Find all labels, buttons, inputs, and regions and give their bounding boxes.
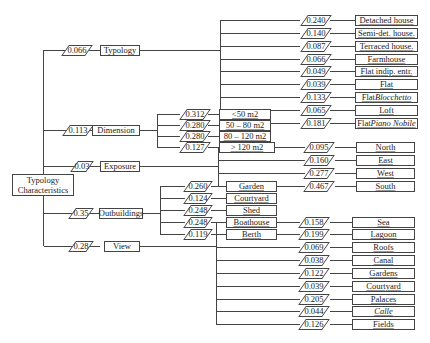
outbuildings-weight: 0.248 [187, 217, 209, 228]
typology-leaf: Detached house [355, 15, 418, 26]
exposure-weight: 0.160 [307, 155, 331, 166]
outbuildings-leaf: Shed [226, 205, 277, 216]
view-weight: 0.038 [302, 255, 326, 266]
category-weight-dimension: 0.113 [66, 125, 90, 136]
dimension-leaf: 50 – 80 m2 [219, 120, 271, 131]
exposure-weight: 0.467 [307, 181, 331, 192]
category-dimension: Dimension [92, 125, 140, 136]
view-leaf: Gardens [352, 268, 415, 279]
typology-weight: 0.133 [304, 92, 328, 103]
root-node: Typology Characteristics [12, 174, 74, 196]
typology-leaf: Farmhouse [355, 54, 418, 65]
exposure-leaf: South [356, 181, 415, 192]
outbuildings-weight: 0.260 [187, 181, 209, 192]
exposure-leaf: East [356, 155, 415, 166]
category-weight-exposure: 0.03 [74, 161, 90, 172]
category-weight-outbuildings: 0.35 [72, 208, 90, 219]
dimension-weight: 0.312 [183, 109, 207, 120]
exposure-weight: 0.095 [307, 142, 331, 153]
view-weight: 0.199 [302, 229, 326, 240]
dimension-leaf: 80 – 120 m2 [219, 131, 271, 142]
typology-leaf: Semi-det. house. [355, 28, 418, 39]
dimension-weight: 0.280 [183, 120, 207, 131]
category-weight-view: 0.28 [72, 241, 90, 252]
category-view: View [104, 241, 140, 252]
root-label-line2: Characteristics [18, 185, 69, 195]
category-exposure: Exposure [100, 161, 140, 172]
view-weight: 0.069 [302, 242, 326, 253]
outbuildings-leaf: Boathouse [226, 217, 277, 228]
view-leaf: Roofs [352, 242, 415, 253]
dimension-leaf: <50 m2 [219, 109, 271, 120]
view-leaf: Canal [352, 255, 415, 266]
typology-leaf: Flat Blocchetto [355, 92, 418, 103]
typology-leaf: Loft [355, 105, 418, 116]
outbuildings-leaf: Courtyard [226, 193, 277, 204]
view-leaf: Fields [352, 319, 415, 330]
dimension-weight: 0.280 [183, 131, 207, 142]
outbuildings-leaf: Garden [226, 181, 277, 192]
typology-weight: 0.181 [304, 118, 328, 129]
outbuildings-weight: 0.124 [187, 193, 209, 204]
view-weight: 0.122 [302, 268, 326, 279]
typology-leaf: Flat Piano Nobile [355, 118, 418, 129]
category-typology: Typology [100, 45, 140, 56]
typology-hierarchy-diagram: Typology Characteristics 0.066 Typology … [0, 0, 430, 343]
view-leaf: Lagoon [352, 229, 415, 240]
view-leaf: Palaces [352, 294, 415, 305]
view-weight: 0.044 [302, 306, 326, 317]
category-weight-typology: 0.066 [65, 45, 89, 56]
typology-weight: 0.065 [304, 105, 328, 116]
typology-weight: 0.140 [304, 28, 328, 39]
exposure-weight: 0.277 [307, 168, 331, 179]
typology-weight: 0.049 [304, 66, 328, 77]
typology-weight: 0.039 [304, 79, 328, 90]
outbuildings-weight: 0.248 [187, 205, 209, 216]
typology-weight: 0.066 [304, 54, 328, 65]
view-weight: 0.205 [302, 294, 326, 305]
view-weight: 0.039 [302, 281, 326, 292]
typology-weight: 0.087 [304, 41, 328, 52]
category-outbuildings: Outbuildings [99, 208, 143, 219]
view-leaf: Courtyard [352, 281, 415, 292]
exposure-leaf: West [356, 168, 415, 179]
view-leaf: Calle [352, 306, 415, 317]
dimension-leaf: > 120 m2 [219, 142, 275, 153]
outbuildings-weight: 0.119 [187, 229, 209, 240]
view-weight: 0.126 [302, 319, 326, 330]
root-label-line1: Typology [27, 175, 59, 185]
outbuildings-leaf: Berth [226, 229, 277, 240]
view-leaf: Sea [352, 217, 415, 228]
view-weight: 0.158 [302, 217, 326, 228]
typology-leaf: Flat [355, 79, 418, 90]
typology-weight: 0.240 [304, 15, 328, 26]
exposure-leaf: North [356, 142, 415, 153]
dimension-weight: 0.127 [183, 142, 207, 153]
typology-leaf: Terraced house. [355, 41, 418, 52]
typology-leaf: Flat indip. entr. [355, 66, 418, 77]
